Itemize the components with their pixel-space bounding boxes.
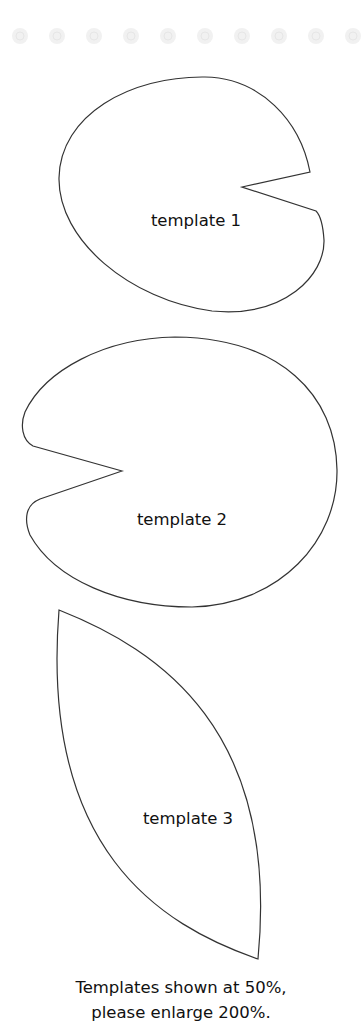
template-1-label: template 1: [151, 211, 241, 230]
flower-dot-icon: [234, 28, 250, 44]
flower-dot-icon: [345, 28, 361, 44]
caption-line-1: Templates shown at 50%,: [0, 975, 362, 1000]
flower-dot-icon: [123, 28, 139, 44]
flower-dot-icon: [86, 28, 102, 44]
flower-dot-icon: [12, 28, 28, 44]
caption-line-2: please enlarge 200%.: [0, 1000, 362, 1025]
template-1: template 1: [59, 77, 324, 312]
flower-dot-icon: [160, 28, 176, 44]
flower-dot-icon: [197, 28, 213, 44]
instructions-caption: Templates shown at 50%, please enlarge 2…: [0, 975, 362, 1025]
template-2-outline: [22, 337, 337, 607]
template-2: template 2: [22, 337, 337, 607]
template-1-outline: [59, 77, 324, 312]
template-3: template 3: [57, 610, 261, 959]
flower-dot-icon: [271, 28, 287, 44]
template-2-label: template 2: [137, 510, 227, 529]
template-3-outline: [57, 610, 261, 959]
flower-dot-icon: [49, 28, 65, 44]
template-3-label: template 3: [143, 809, 233, 828]
template-sheet: template 1 template 2 template 3: [0, 0, 362, 1029]
flower-dot-icon: [308, 28, 324, 44]
decorative-dot-border: [12, 28, 361, 44]
